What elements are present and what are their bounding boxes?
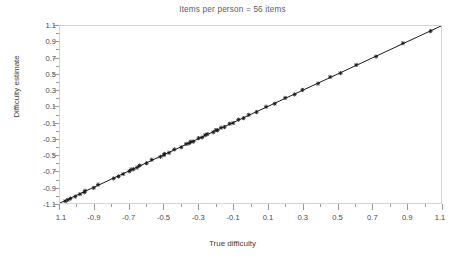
data-point xyxy=(96,183,100,187)
x-major-tick xyxy=(338,204,339,210)
x-tick-label: -0.9 xyxy=(87,213,100,222)
x-major-tick xyxy=(59,204,60,210)
x-minor-tick xyxy=(76,204,77,207)
y-axis-tick-labels: 1.10.90.70.50.30.1-0.1-0.3-0.5-0.7-0.9-1… xyxy=(20,25,56,204)
x-tick-label: -0.5 xyxy=(157,213,170,222)
x-minor-tick xyxy=(251,204,252,207)
data-point xyxy=(121,172,125,176)
data-point xyxy=(205,132,209,136)
data-point xyxy=(216,128,220,132)
data-point xyxy=(172,147,176,151)
data-point xyxy=(264,105,268,109)
x-minor-tick xyxy=(111,204,112,207)
x-major-tick xyxy=(372,204,373,210)
x-axis-title: True difficulty xyxy=(0,239,465,248)
x-tick-label: 0.9 xyxy=(402,213,413,222)
x-tick-label: 0.1 xyxy=(263,213,274,222)
data-point xyxy=(273,102,277,106)
x-major-tick xyxy=(233,204,234,210)
x-tick-label: 0.3 xyxy=(297,213,308,222)
x-major-tick xyxy=(407,204,408,210)
data-point xyxy=(78,192,82,196)
x-minor-tick xyxy=(320,204,321,207)
data-point xyxy=(254,110,258,114)
data-point xyxy=(179,145,183,149)
data-point xyxy=(112,176,116,180)
data-point xyxy=(162,152,166,156)
data-point xyxy=(228,122,232,126)
data-point xyxy=(293,92,297,96)
plot-area xyxy=(59,25,442,204)
data-point xyxy=(300,88,304,92)
data-point xyxy=(283,96,287,100)
x-tick-label: 1.1 xyxy=(56,213,67,222)
data-point xyxy=(429,29,433,33)
x-major-tick xyxy=(198,204,199,210)
x-minor-tick xyxy=(425,204,426,207)
x-minor-tick xyxy=(181,204,182,207)
data-point xyxy=(222,125,226,129)
x-major-tick xyxy=(268,204,269,210)
x-axis-ticks xyxy=(59,204,442,211)
data-point xyxy=(68,196,72,200)
data-point xyxy=(316,82,320,86)
x-axis-tick-labels: 1.1-0.9-0.7-0.5-0.3-0.10.10.30.50.70.91.… xyxy=(59,213,442,227)
data-point xyxy=(236,118,240,122)
x-major-tick xyxy=(163,204,164,210)
x-minor-tick xyxy=(146,204,147,207)
x-major-tick xyxy=(94,204,95,210)
data-point xyxy=(167,151,171,155)
scatter-plot-canvas xyxy=(60,26,441,203)
x-tick-label: -0.7 xyxy=(122,213,135,222)
data-point-group xyxy=(63,29,433,203)
data-point xyxy=(247,113,251,117)
data-point xyxy=(401,41,405,45)
data-point xyxy=(354,63,358,67)
data-point xyxy=(92,186,96,190)
x-major-tick xyxy=(303,204,304,210)
x-minor-tick xyxy=(216,204,217,207)
x-tick-label: 0.7 xyxy=(367,213,378,222)
data-point xyxy=(200,135,204,139)
data-point xyxy=(374,54,378,58)
data-point xyxy=(73,194,77,198)
data-point xyxy=(231,121,235,125)
x-major-tick xyxy=(129,204,130,210)
x-minor-tick xyxy=(390,204,391,207)
data-point xyxy=(241,116,245,120)
data-point xyxy=(338,71,342,75)
data-point xyxy=(196,136,200,140)
x-tick-label: 0.5 xyxy=(332,213,343,222)
data-point xyxy=(191,139,195,143)
x-tick-label: -0.1 xyxy=(227,213,240,222)
data-point xyxy=(116,174,120,178)
data-point xyxy=(219,126,223,130)
data-point xyxy=(328,75,332,79)
x-major-tick xyxy=(442,204,443,210)
x-minor-tick xyxy=(355,204,356,207)
x-tick-label: 1.1 xyxy=(435,213,446,222)
x-minor-tick xyxy=(285,204,286,207)
chart-title: Items per person = 56 items xyxy=(0,5,465,14)
x-tick-label: -0.3 xyxy=(192,213,205,222)
data-point xyxy=(150,158,154,162)
data-point xyxy=(145,161,149,165)
data-point xyxy=(83,189,87,193)
data-point xyxy=(138,163,142,167)
data-point xyxy=(131,167,135,171)
